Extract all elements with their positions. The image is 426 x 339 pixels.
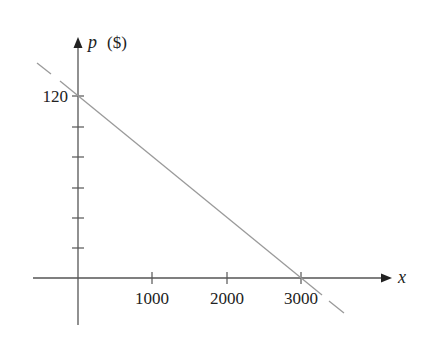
y-tick-label-120: 120 [43, 87, 69, 106]
y-axis-label-unit: ($) [107, 33, 127, 52]
x-tick-label-3000: 3000 [284, 289, 318, 308]
x-axis-label: x [397, 267, 406, 287]
x-axis-arrow-icon [381, 274, 392, 283]
y-axis-label-var: p [86, 32, 97, 52]
y-axis-label: p ($) [86, 32, 127, 52]
x-tick-label-2000: 2000 [210, 289, 244, 308]
y-axis-arrow-icon [74, 37, 83, 48]
x-tick-label-1000: 1000 [135, 289, 169, 308]
chart: 120 1000 2000 3000 x p ($) [0, 0, 426, 339]
